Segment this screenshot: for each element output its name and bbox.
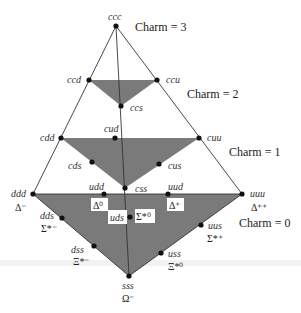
label-cdd: cdd	[40, 132, 55, 143]
particle-delta-0: Δ⁰	[93, 200, 103, 211]
node-uus	[198, 222, 203, 227]
node-ccc	[113, 23, 118, 28]
label-ccu: ccu	[166, 74, 180, 85]
charm-3-label: Charm = 3	[135, 20, 186, 34]
label-dds: dds	[40, 210, 54, 221]
label-cud: cud	[104, 123, 119, 134]
node-uds	[127, 214, 132, 219]
label-cus: cus	[168, 160, 181, 171]
label-ccd: ccd	[67, 74, 82, 85]
charm-1-label: Charm = 1	[229, 145, 280, 159]
particle-delta-plus: Δ⁺	[169, 200, 180, 211]
node-ccu	[154, 77, 159, 82]
particle-sigma-star-minus: Σ*⁻	[41, 223, 57, 234]
node-uud	[165, 191, 170, 196]
charm-baryon-tetrahedron: Charm = 3 Charm = 2 Charm = 1 Charm = 0 …	[0, 0, 301, 313]
label-udd: udd	[89, 181, 105, 192]
label-uus: uus	[208, 220, 222, 231]
node-cdd	[58, 135, 63, 140]
node-sss	[126, 273, 131, 278]
node-ccd	[86, 77, 91, 82]
node-cds	[89, 159, 94, 164]
node-ccs	[118, 103, 123, 108]
label-css: css	[135, 183, 147, 194]
node-ddd	[30, 191, 35, 196]
particle-xi-star-minus: Ξ*⁻	[73, 256, 89, 267]
node-udd	[101, 191, 106, 196]
node-dds	[59, 215, 64, 220]
node-uss	[158, 250, 163, 255]
node-cud	[112, 135, 117, 140]
label-uds: uds	[110, 212, 124, 223]
particle-xi-star-0: Ξ*⁰	[168, 261, 183, 272]
particle-omega-minus: Ω⁻	[122, 293, 134, 304]
node-uuu	[239, 191, 244, 196]
label-sss: sss	[122, 280, 134, 291]
node-css	[122, 185, 127, 190]
label-cuu: cuu	[207, 132, 221, 143]
node-cus	[156, 161, 161, 166]
label-dss: dss	[71, 244, 84, 255]
label-cds: cds	[68, 160, 81, 171]
label-uuu: uuu	[250, 188, 265, 199]
particle-delta-minus: Δ⁻	[15, 202, 26, 213]
node-dss	[91, 243, 96, 248]
charm-0-label: Charm = 0	[239, 216, 290, 230]
label-ccs: ccs	[130, 102, 143, 113]
label-ddd: ddd	[11, 188, 27, 199]
node-cuu	[196, 135, 201, 140]
particle-sigma-star-0: Σ*⁰	[136, 211, 151, 222]
charm-2-plane	[89, 80, 157, 106]
label-ccc: ccc	[108, 11, 122, 22]
particle-sigma-star-plus: Σ*⁺	[207, 233, 223, 244]
particle-delta-plusplus: Δ⁺⁺	[251, 202, 267, 213]
label-uss: uss	[168, 248, 181, 259]
charm-2-label: Charm = 2	[187, 87, 238, 101]
label-uud: uud	[168, 181, 184, 192]
